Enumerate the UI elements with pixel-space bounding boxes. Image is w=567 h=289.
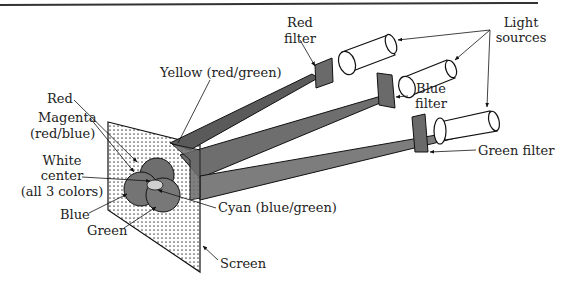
blue-filter [377, 73, 395, 108]
label-red-filter-2: filter [284, 31, 317, 46]
white-center [147, 180, 163, 190]
label-yellow: Yellow (red/green) [159, 65, 282, 80]
label-green-filter: Green filter [478, 143, 555, 158]
labels: Red filter Light sources Blue filter Gre… [21, 15, 556, 271]
label-screen: Screen [220, 256, 267, 271]
label-magenta: Magenta [38, 110, 97, 125]
label-blue-filter-2: filter [415, 96, 448, 111]
label-green: Green [87, 223, 128, 238]
label-blue-filter: Blue [416, 81, 446, 96]
label-red-filter: Red [287, 15, 313, 30]
color-mixing-diagram: Red filter Light sources Blue filter Gre… [0, 0, 567, 289]
label-white-3: (all 3 colors) [21, 184, 104, 199]
label-light-sources-2: sources [496, 30, 547, 45]
label-magenta-2: (red/blue) [30, 126, 95, 141]
green-filter [412, 114, 428, 152]
label-light-sources: Light [504, 15, 539, 30]
light-source-red [335, 33, 399, 77]
top-border-line [0, 3, 538, 5]
red-filter [315, 58, 333, 88]
label-white-2: center [41, 168, 84, 183]
label-white: White [43, 153, 82, 168]
label-blue: Blue [60, 207, 90, 222]
label-cyan: Cyan (blue/green) [218, 200, 337, 215]
label-red: Red [47, 91, 73, 106]
light-source-green [434, 110, 501, 144]
